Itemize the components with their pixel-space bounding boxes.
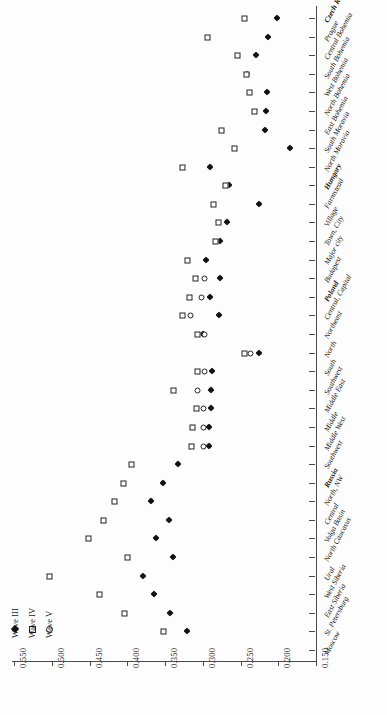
- legend-label-wave-v: Wave V: [44, 611, 54, 638]
- data-point: [246, 90, 252, 96]
- data-point: [206, 293, 213, 300]
- data-point: [211, 201, 217, 207]
- data-point: [193, 406, 199, 412]
- data-point: [152, 535, 159, 542]
- value-tick-label: 0.500: [56, 648, 66, 668]
- data-point: [159, 479, 166, 486]
- data-point: [121, 480, 127, 486]
- data-point: [265, 33, 272, 40]
- data-point: [205, 442, 212, 449]
- category-tick: [309, 538, 315, 539]
- data-point: [194, 387, 200, 393]
- category-tick: [309, 334, 315, 335]
- category-tick: [309, 353, 315, 354]
- data-point: [129, 462, 135, 468]
- category-tick: [309, 55, 315, 56]
- category-tick: [309, 74, 315, 75]
- data-point: [252, 108, 258, 114]
- value-tick: [14, 661, 15, 666]
- category-tick: [309, 501, 315, 502]
- data-point: [263, 107, 270, 114]
- legend: Wave III Wave IV Wave V: [6, 548, 70, 640]
- data-point: [261, 126, 268, 133]
- data-point: [169, 554, 176, 561]
- data-point: [212, 239, 218, 245]
- data-point: [85, 536, 91, 542]
- category-tick: [309, 483, 315, 484]
- data-point: [206, 163, 213, 170]
- data-point: [202, 369, 208, 375]
- data-point: [161, 629, 167, 635]
- data-point: [187, 294, 193, 300]
- data-point: [97, 592, 103, 598]
- category-tick: [309, 446, 315, 447]
- data-point: [111, 499, 117, 505]
- value-tick: [316, 661, 317, 666]
- data-point: [200, 424, 206, 430]
- data-point: [200, 443, 206, 449]
- value-tick: [90, 661, 91, 666]
- data-point: [187, 313, 193, 319]
- data-point: [243, 71, 249, 77]
- data-point: [180, 164, 186, 170]
- category-tick: [309, 408, 315, 409]
- category-tick: [309, 222, 315, 223]
- value-tick-label: 0.250: [245, 648, 255, 668]
- data-point: [165, 516, 172, 523]
- data-point: [223, 219, 230, 226]
- category-tick: [309, 297, 315, 298]
- category-tick: [309, 18, 315, 19]
- value-tick: [278, 661, 279, 666]
- data-point: [171, 387, 177, 393]
- data-point: [208, 386, 215, 393]
- value-tick: [127, 661, 128, 666]
- category-tick: [309, 520, 315, 521]
- data-point: [167, 609, 174, 616]
- category-tick: [309, 167, 315, 168]
- data-point: [188, 443, 194, 449]
- category-tick: [309, 148, 315, 149]
- category-tick: [309, 650, 315, 651]
- category-tick: [309, 204, 315, 205]
- value-tick: [165, 661, 166, 666]
- legend-label-wave-iv: Wave IV: [27, 608, 37, 638]
- category-tick: [309, 278, 315, 279]
- data-point: [215, 312, 222, 319]
- data-point: [253, 52, 260, 59]
- category-tick: [309, 427, 315, 428]
- category-tick: [309, 390, 315, 391]
- data-point: [180, 313, 186, 319]
- data-point: [274, 14, 281, 21]
- data-point: [199, 294, 205, 300]
- value-tick-label: 0.450: [94, 648, 104, 668]
- data-point: [202, 332, 208, 338]
- data-point: [286, 145, 293, 152]
- chart-figure: 0.5500.5000.4500.4000.3500.3000.2500.200…: [0, 0, 387, 715]
- data-point: [241, 16, 247, 22]
- data-point: [256, 200, 263, 207]
- category-tick: [309, 315, 315, 316]
- category-tick: [309, 464, 315, 465]
- data-point: [148, 498, 155, 505]
- data-point: [247, 350, 253, 356]
- data-point: [232, 146, 238, 152]
- data-point: [200, 406, 206, 412]
- value-tick-label: 0.350: [169, 648, 179, 668]
- data-point: [202, 256, 209, 263]
- data-point: [215, 220, 221, 226]
- value-tick: [203, 661, 204, 666]
- category-tick: [309, 557, 315, 558]
- category-tick: [309, 371, 315, 372]
- data-point: [101, 517, 107, 523]
- legend-label-wave-iii: Wave III: [10, 608, 20, 638]
- data-point: [193, 276, 199, 282]
- data-point: [174, 461, 181, 468]
- data-point: [208, 368, 215, 375]
- data-point: [195, 369, 201, 375]
- data-point: [235, 53, 241, 59]
- category-tick: [309, 260, 315, 261]
- data-point: [125, 555, 131, 561]
- category-tick: [309, 92, 315, 93]
- data-point: [190, 424, 196, 430]
- data-point: [223, 183, 229, 189]
